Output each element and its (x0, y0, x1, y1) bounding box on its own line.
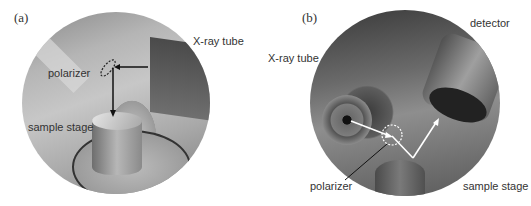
panel-b-arrows (0, 0, 531, 206)
label-sample-stage-b: sample stage (463, 180, 528, 192)
label-xray-tube-b: X-ray tube (268, 52, 319, 64)
label-detector-b: detector (470, 17, 510, 29)
label-polarizer-b: polarizer (310, 180, 352, 192)
panel-b-label: (b) (302, 10, 317, 26)
